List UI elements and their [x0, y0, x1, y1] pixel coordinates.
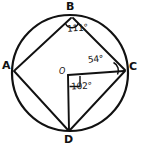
vertex-label-A: A	[2, 60, 11, 71]
vertex-label-D: D	[64, 134, 73, 145]
angle-arc-C-icon	[114, 63, 119, 75]
angle-label-O: 102°	[71, 81, 92, 91]
angle-label-B: 111°	[67, 23, 88, 33]
geometry-figure: A B C D O 111° 54° 102°	[0, 0, 141, 148]
angle-label-C: 54°	[88, 54, 104, 65]
geometry-canvas	[0, 0, 141, 148]
center-label-O: O	[59, 68, 65, 76]
segment-OC	[68, 71, 124, 75]
vertex-label-C: C	[129, 61, 137, 72]
segment-CD	[70, 71, 125, 130]
vertex-label-B: B	[66, 1, 74, 12]
segment-OD	[68, 75, 69, 130]
segment-AB	[15, 18, 71, 70]
segment-DA	[14, 71, 68, 130]
